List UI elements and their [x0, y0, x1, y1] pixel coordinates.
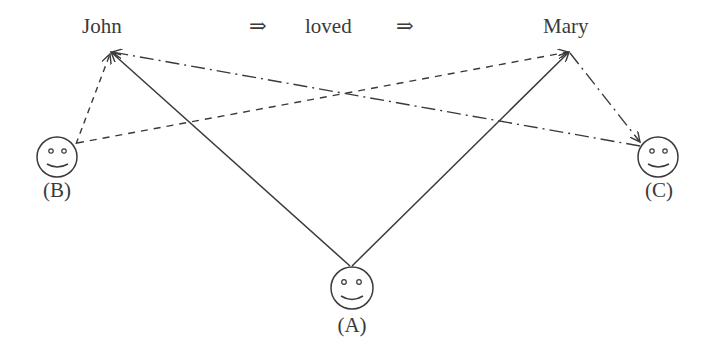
edge-b-mary [77, 52, 568, 143]
edge-a-john [111, 52, 350, 266]
edge-c-john [112, 52, 640, 146]
edge-a-mary [352, 52, 569, 266]
edge-mary-c [570, 53, 640, 142]
diagram-canvas [0, 0, 715, 359]
agent-label-c: (C) [645, 180, 673, 201]
agent-label-a: (A) [337, 315, 366, 336]
agent-label-b: (B) [43, 180, 71, 201]
smiley-face-icon [331, 267, 373, 309]
edge-b-john [76, 54, 110, 144]
smiley-face-icon [37, 137, 77, 177]
smiley-face-icon [638, 137, 678, 177]
